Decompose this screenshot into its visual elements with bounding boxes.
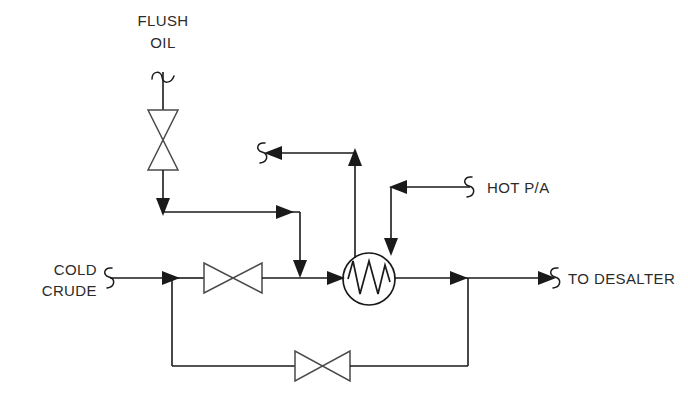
hot-pa-outlet-up-arrow-icon: [348, 148, 362, 166]
crude-outlet-arrow-icon: [450, 271, 468, 285]
to-desalter-label: TO DESALTER: [568, 270, 675, 287]
pfd-canvas: FLUSH OIL COLD CRUDE HOT P/A TO DESALTER: [0, 0, 688, 403]
cold-crude-valve: [204, 263, 262, 293]
flush-oil-into-header-arrow-icon: [293, 260, 307, 278]
heat-exchanger-coil-icon: [348, 261, 390, 294]
flush-oil-down-arrow-icon: [156, 198, 170, 216]
bypass-valve-body: [295, 351, 350, 381]
to-desalter-arrow-icon: [538, 271, 556, 285]
cold-crude-label-line2: CRUDE: [42, 282, 97, 299]
hot-pa-label: HOT P/A: [487, 179, 550, 196]
hot-pa-inlet-down-arrow-icon: [384, 238, 398, 256]
flush-oil-valve-body: [148, 110, 178, 170]
exchanger-bypass-stream: [172, 278, 468, 381]
hot-pa-outlet-break-icon: [258, 143, 267, 163]
cold-crude-inlet-stream: [105, 263, 345, 293]
heat-exchanger: [343, 253, 395, 305]
bypass-valve: [295, 351, 350, 381]
hot-pa-outlet-stream: [258, 143, 362, 258]
flush-oil-label-line1: FLUSH: [137, 12, 188, 29]
flush-oil-label-line2: OIL: [150, 34, 175, 51]
flush-oil-stream: [148, 72, 307, 278]
hot-pa-inlet-stream: [384, 177, 474, 256]
cold-crude-into-exchanger-arrow-icon: [327, 271, 345, 285]
crude-outlet-stream: [394, 268, 560, 288]
process-flow-diagram: FLUSH OIL COLD CRUDE HOT P/A TO DESALTER: [0, 0, 688, 403]
flush-oil-right-arrow-icon: [276, 205, 294, 219]
cold-crude-valve-body: [204, 263, 262, 293]
flush-oil-valve: [148, 110, 178, 170]
cold-crude-label-line1: COLD: [54, 261, 97, 278]
